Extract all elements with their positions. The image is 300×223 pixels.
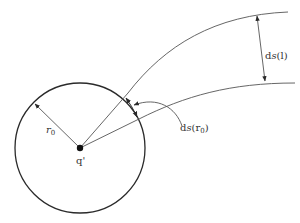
ds-r0-open: (r [192, 122, 201, 133]
ds-r0-pointer-arrow [134, 102, 182, 126]
radius-arrow [35, 104, 80, 148]
ds-l-arg: (l) [277, 50, 288, 61]
diagram-canvas: q' r0 ds(l) ds(r0) [0, 0, 300, 223]
ds-l-label: ds(l) [265, 50, 288, 61]
ds-l-arrow [257, 16, 265, 81]
ds-r0-close: ) [205, 122, 209, 133]
charge-label: q' [76, 155, 85, 166]
ds-r0-label: ds(r0) [180, 122, 209, 135]
radius-label: r0 [46, 124, 55, 137]
field-line-diagram: q' r0 ds(l) ds(r0) [0, 0, 300, 223]
field-line-lower [80, 83, 295, 148]
charge-point [77, 145, 83, 151]
radius-label-sub: 0 [51, 129, 55, 137]
